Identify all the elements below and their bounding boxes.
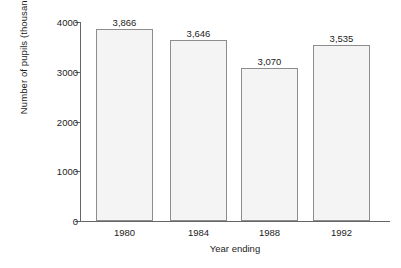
bar-value-label: 3,535 xyxy=(330,33,354,44)
bar-value-label: 3,070 xyxy=(258,56,282,67)
x-tick-label-1992: 1992 xyxy=(331,227,352,238)
bar-1980[interactable]: 3,866 xyxy=(96,29,153,221)
bar-chart: Number of pupils (thousands) 0 1000 2000… xyxy=(0,0,401,268)
bar-value-label: 3,646 xyxy=(187,28,211,39)
y-tick-label: 0 xyxy=(18,216,78,227)
x-axis-line xyxy=(80,221,390,222)
y-tick-label: 4000 xyxy=(18,17,78,28)
y-tick-label: 3000 xyxy=(18,66,78,77)
bar-1988[interactable]: 3,070 xyxy=(241,68,298,221)
plot-area: 0 1000 2000 3000 4000 3,866 3,646 3,070 … xyxy=(80,22,390,221)
y-axis-line xyxy=(80,22,81,221)
bar-1984[interactable]: 3,646 xyxy=(170,40,227,222)
y-tick-label: 2000 xyxy=(18,116,78,127)
bar-1992[interactable]: 3,535 xyxy=(313,45,370,221)
x-tick-label-1988: 1988 xyxy=(259,227,280,238)
x-tick-label-1984: 1984 xyxy=(188,227,209,238)
x-tick-label-1980: 1980 xyxy=(114,227,135,238)
y-tick-label: 1000 xyxy=(18,166,78,177)
x-axis-title: Year ending xyxy=(80,243,390,254)
bar-value-label: 3,866 xyxy=(113,17,137,28)
